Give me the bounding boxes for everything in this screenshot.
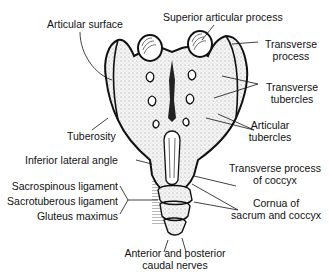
- label-transverse-process-line2: process: [260, 50, 322, 62]
- left-superior-articular-process: [138, 35, 162, 61]
- label-sacrospinous-ligament: Sacrospinous ligament: [0, 180, 118, 192]
- label-articular-tubercles: Articular tubercles: [240, 119, 300, 143]
- label-caudal-nerves-line1: Anterior and posterior: [115, 247, 235, 259]
- label-inferior-lateral-angle: Inferior lateral angle: [25, 154, 118, 166]
- label-gluteus-maximus: Gluteus maximus: [0, 210, 118, 222]
- label-transverse-process-line1: Transverse: [260, 38, 322, 50]
- label-cornua-line2: sacrum and coccyx: [226, 209, 326, 221]
- label-cornua: Cornua of sacrum and coccyx: [226, 197, 326, 221]
- label-cornua-line1: Cornua of: [226, 197, 326, 209]
- sacrum-diagram: Articular surface Superior articular pro…: [0, 0, 329, 278]
- label-caudal-nerves: Anterior and posterior caudal nerves: [115, 247, 235, 271]
- label-articular-tubercles-line1: Articular: [240, 119, 300, 131]
- label-transverse-process-coccyx: Transverse process of coccyx: [222, 162, 328, 186]
- label-transverse-tubercles-line1: Transverse: [262, 81, 322, 93]
- label-transverse-tubercles-line2: tubercles: [262, 93, 322, 105]
- label-caudal-nerves-line2: caudal nerves: [115, 259, 235, 271]
- right-superior-articular-process: [188, 31, 212, 57]
- label-transverse-process: Transverse process: [260, 38, 322, 62]
- label-articular-tubercles-line2: tubercles: [240, 131, 300, 143]
- label-sacrotuberous-ligament: Sacrotuberous ligament: [0, 195, 118, 207]
- label-superior-articular-process: Superior articular process: [163, 11, 283, 23]
- label-articular-surface: Articular surface: [47, 18, 123, 30]
- label-transverse-process-coccyx-line2: of coccyx: [222, 174, 328, 186]
- label-transverse-process-coccyx-line1: Transverse process: [222, 162, 328, 174]
- sacral-hiatus: [164, 131, 180, 185]
- coccyx: [158, 186, 192, 236]
- label-transverse-tubercles: Transverse tubercles: [262, 81, 322, 105]
- label-tuberosity: Tuberosity: [67, 130, 116, 142]
